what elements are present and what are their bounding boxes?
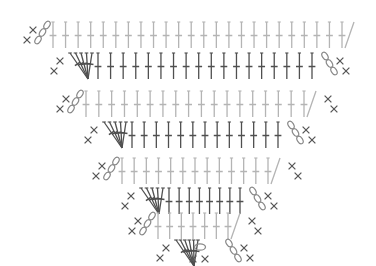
chain-stitch (139, 226, 148, 236)
double-crochet-angled-post (104, 122, 122, 148)
apex-group (190, 244, 209, 263)
chain-stitch (234, 253, 243, 263)
crochet-chart-container: Crochet Triangular Shawl Stitch Chart Cr… (0, 0, 376, 266)
chart-row (51, 51, 350, 79)
chart-rows-layer (24, 20, 354, 266)
chart-row (24, 20, 354, 48)
double-crochet-angled-post (141, 188, 159, 214)
chart-row (122, 186, 278, 214)
double-crochet-angled-crossbar (121, 132, 127, 133)
double-crochet-angled-crossbar (87, 63, 93, 64)
chain-stitch (330, 66, 339, 76)
double-crochet-angled-post (70, 53, 88, 79)
chart-apex-layer (190, 244, 209, 263)
chart-row (129, 211, 262, 239)
turning-chain (271, 158, 280, 184)
chart-row (57, 89, 338, 117)
chain-stitch (296, 135, 305, 145)
crochet-stitch-chart: Crochet Triangular Shawl Stitch Chart (0, 0, 376, 266)
double-crochet-angled-crossbar (158, 198, 164, 199)
foundation-ring (195, 244, 206, 250)
turning-chain (345, 22, 354, 48)
double-crochet-angled-post (88, 53, 92, 79)
chain-stitch (103, 171, 112, 181)
chain-stitch (258, 201, 267, 211)
chain-stitch (34, 35, 43, 45)
turning-chain (231, 213, 240, 239)
chart-row (85, 120, 316, 148)
turning-chain (307, 91, 316, 117)
double-crochet-angled-post (122, 122, 126, 148)
chain-stitch (67, 104, 76, 114)
chart-row (93, 156, 302, 184)
chart-row (157, 238, 254, 266)
double-crochet-angled-post (159, 188, 163, 214)
